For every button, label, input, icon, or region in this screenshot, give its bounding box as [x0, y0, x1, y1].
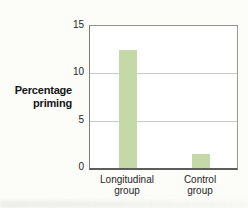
x-category-label-line-2: group [114, 185, 140, 196]
bar-control-group [192, 154, 210, 168]
y-tick-label-10: 10 [56, 67, 84, 77]
x-category-label-line-1: Control [184, 174, 216, 185]
y-tick-label-5: 5 [56, 115, 84, 125]
x-category-label-control-group: Controlgroup [155, 174, 245, 196]
plot-area [89, 25, 238, 170]
gridline-10 [90, 73, 237, 74]
x-category-label-line-2: group [187, 185, 213, 196]
y-axis-title-line-2: priming [33, 97, 72, 109]
y-axis-title: Percentage priming [4, 84, 72, 109]
bar-chart-figure: Percentage priming 051015Longitudinalgro… [0, 0, 248, 208]
gridline-5 [90, 121, 237, 122]
page-scan-shadow [0, 201, 248, 208]
x-category-label-line-1: Longitudinal [100, 174, 154, 185]
y-tick-label-0: 0 [56, 162, 84, 172]
bar-longitudinal-group [119, 50, 137, 168]
y-axis-title-line-1: Percentage [15, 84, 72, 96]
y-tick-label-15: 15 [56, 20, 84, 30]
